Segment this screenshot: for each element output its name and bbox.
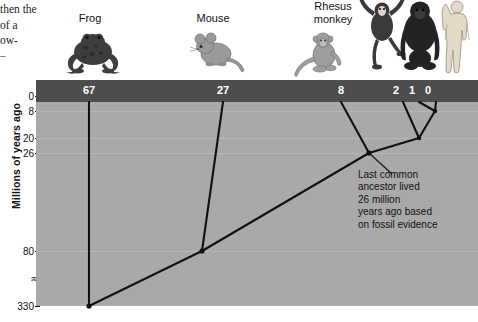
- y-tick-label-8: 8: [0, 106, 34, 117]
- organism-label-frog: Frog: [62, 12, 118, 25]
- annotation-last-common-ancestor: Last common ancestor lived 26 million ye…: [358, 169, 463, 231]
- y-tick-mark-330: [35, 306, 40, 307]
- y-tick-label-20: 20: [0, 133, 34, 144]
- node-gibbon-split: [417, 136, 422, 141]
- bleed-line-1: then the: [0, 2, 58, 18]
- band-value-rhesus: 8: [326, 84, 356, 96]
- organism-label-rhesus-monkey: Rhesus monkey: [300, 0, 366, 25]
- organism-label-mouse: Mouse: [185, 12, 241, 25]
- y-tick-label-330: 330: [0, 301, 34, 312]
- gorilla-illustration: [398, 0, 442, 78]
- y-tick-label-80: 80: [0, 246, 34, 257]
- human-illustration: [438, 0, 476, 78]
- band-value-human: 0: [420, 84, 436, 96]
- node-gorilla-split: [433, 109, 438, 114]
- band-value-gibbon: 2: [388, 84, 404, 96]
- node-root: [86, 303, 91, 308]
- node-mammal-split: [199, 248, 204, 253]
- bleed-text-block: then the of a ow- –: [0, 2, 58, 62]
- phylogeny-plot-area: Last common ancestor lived 26 million ye…: [36, 102, 478, 306]
- bleed-line-4: –: [0, 49, 58, 62]
- bleed-line-2: of a: [0, 18, 58, 34]
- rhesus-monkey-illustration: [292, 27, 350, 77]
- band-value-mouse: 27: [208, 84, 238, 96]
- bleed-line-3: ow-: [0, 33, 58, 49]
- band-value-frog: 67: [74, 84, 104, 96]
- mouse-illustration: [190, 28, 250, 78]
- percent-difference-band: 67 27 8 2 1 0 ≈: [36, 80, 478, 102]
- y-tick-label-0: 0: [0, 91, 34, 102]
- band-value-gorilla: 1: [404, 84, 420, 96]
- y-tick-label-26: 26: [0, 148, 34, 159]
- frog-illustration: [62, 30, 124, 78]
